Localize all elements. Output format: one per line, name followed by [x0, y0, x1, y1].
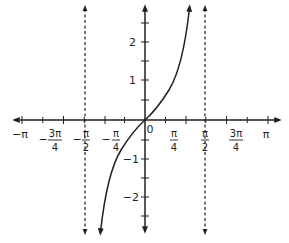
x-label-pi4-num: π: [171, 128, 177, 139]
y-label-neg2: −2: [123, 191, 139, 204]
x-label-neg-pi4-minus: −: [101, 133, 110, 146]
x-label-pi: π: [263, 128, 270, 141]
x-label-3pi4-den: 4: [233, 142, 239, 153]
x-label-pi2-den: 2: [202, 142, 208, 153]
x-label-neg-3pi4-minus: −: [38, 133, 47, 146]
tangent-plot: −π − 3π 4 − π 2 − π 4 0 π 4 π 2 3π 4 π 2…: [0, 0, 289, 243]
x-label-neg-3pi4-den: 4: [52, 142, 58, 153]
y-label-1: 1: [129, 74, 136, 87]
x-label-neg-pi: −π: [12, 128, 28, 141]
origin-label: 0: [147, 123, 154, 136]
x-label-pi4-den: 4: [171, 142, 177, 153]
y-label-neg1: −1: [123, 153, 139, 166]
y-label-2: 2: [129, 36, 136, 49]
x-label-neg-pi2-minus: −: [72, 133, 81, 146]
x-label-neg-pi2-den: 2: [83, 142, 89, 153]
x-label-neg-pi4-den: 4: [113, 142, 119, 153]
x-label-neg-3pi4-num: 3π: [49, 128, 61, 139]
x-label-neg-pi4-num: π: [113, 128, 119, 139]
x-label-neg-pi2-num: π: [83, 128, 89, 139]
x-label-pi2-num: π: [202, 128, 208, 139]
x-label-3pi4-num: 3π: [230, 128, 242, 139]
